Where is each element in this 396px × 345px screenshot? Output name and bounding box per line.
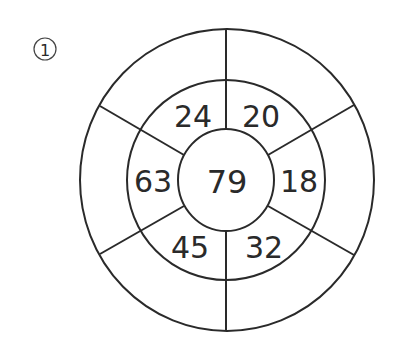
middle-ring-value: 63 [134,164,172,199]
middle-ring-value: 20 [242,99,280,134]
problem-number: 1 [40,41,50,60]
center-value: 79 [207,163,248,201]
problem-number-badge: 1 [34,38,56,60]
worksheet: 1 79 24 20 18 32 45 63 [0,0,396,345]
middle-ring-value: 24 [174,99,212,134]
divider-upper-left [100,106,184,155]
middle-ring-value: 45 [171,230,209,265]
middle-ring-value: 18 [280,164,318,199]
ring-diagram: 1 79 24 20 18 32 45 63 [0,0,396,345]
middle-ring-value: 32 [245,230,283,265]
divider-upper-right [268,105,354,155]
